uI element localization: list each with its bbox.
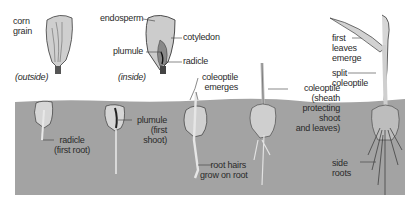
corn-grain-outside-illustration [46, 15, 72, 74]
label-root-hairs: root hairs grow on root [200, 160, 246, 180]
label-split-coleoptile: split coleoptile [332, 68, 368, 88]
label-first-leaves: first leaves emerge [332, 33, 361, 63]
label-side-roots: side roots [332, 158, 351, 178]
germination-diagram: corn grain (outside) (inside) endosperm … [0, 0, 412, 205]
label-coleoptile-sheath: coleoptile (sheath protecting shoot and … [290, 83, 340, 133]
label-plumule-first-shoot: plumule (first shoot) [133, 115, 167, 145]
label-endosperm: endosperm [100, 13, 143, 23]
corn-grain-inside-illustration [146, 15, 175, 74]
label-inside: (inside) [118, 72, 146, 82]
label-radicle: radicle [183, 56, 208, 66]
label-coleoptile-emerges: coleoptile emerges [202, 72, 238, 92]
label-outside: (outside) [15, 72, 48, 82]
label-corn-grain: corn grain [13, 16, 32, 36]
label-radicle-first-root: radicle (first root) [54, 135, 90, 155]
label-plumule: plumule [113, 46, 143, 56]
label-cotyledon: cotyledon [183, 32, 220, 42]
